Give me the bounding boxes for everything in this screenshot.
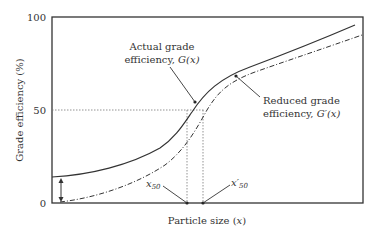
- y-axis-label: Grade efficiency (%): [14, 58, 25, 161]
- y-tick-50: 50: [33, 105, 46, 116]
- reduced-label-line1: Reduced grade: [263, 95, 340, 106]
- x-axis-label: Particle size (x): [168, 215, 246, 226]
- actual-leader: [170, 67, 195, 102]
- reduced-leader: [236, 76, 260, 97]
- grade-efficiency-chart: 100 50 0 Grade efficiency (%) Particle s…: [0, 0, 376, 239]
- y-tick-100: 100: [27, 12, 46, 23]
- actual-label-line2: efficiency, G(x): [124, 54, 199, 65]
- y-tick-0: 0: [40, 198, 46, 209]
- x50-prime-label: x′50: [231, 177, 248, 190]
- actual-label-line1: Actual grade: [128, 41, 194, 52]
- x50-prime-leader: [203, 185, 230, 203]
- x50-label: x50: [146, 178, 161, 191]
- reduced-label-line2: efficiency, G′(x): [263, 108, 340, 119]
- x50-leader: [163, 186, 187, 203]
- offset-arrow-head-up: [59, 178, 64, 183]
